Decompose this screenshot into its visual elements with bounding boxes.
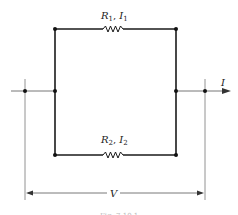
junction-dot: [53, 153, 57, 157]
label-voltage: V: [110, 188, 119, 199]
bottom-branch: [55, 152, 176, 158]
junction-dot: [174, 153, 178, 157]
circuit-diagram: R1, I1 R2, I2 I V Fig. 7.10.1: [0, 0, 238, 215]
label-r2-i2: R2, I2: [100, 134, 128, 147]
junction-dot: [53, 89, 57, 93]
label-r1-i1: R1, I1: [100, 10, 128, 23]
terminal-dot: [23, 89, 27, 93]
junction-dot: [174, 27, 178, 31]
junction-dot: [53, 27, 57, 31]
resistor-r2-icon: [103, 152, 123, 158]
top-branch: [55, 26, 176, 32]
junction-dot: [174, 89, 178, 93]
resistor-r1-icon: [103, 26, 123, 32]
label-total-current: I: [220, 77, 226, 88]
dimension-arrow-right-icon: [197, 191, 204, 196]
current-arrow-icon: [222, 88, 231, 94]
dimension-arrow-left-icon: [26, 191, 33, 196]
figure-caption: Fig. 7.10.1: [100, 212, 138, 215]
terminal-dot: [203, 89, 207, 93]
